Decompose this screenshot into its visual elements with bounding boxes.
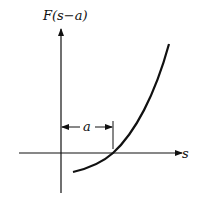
shift-label: a <box>83 119 91 134</box>
x-axis-label: s <box>182 146 189 161</box>
shifted-function-diagram: a s F(s−a) <box>0 0 197 209</box>
y-axis-label: F(s−a) <box>42 8 87 23</box>
